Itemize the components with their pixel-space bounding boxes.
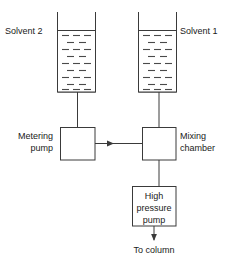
to-column-label: To column xyxy=(133,245,174,255)
flow-arrow-head-horizontal xyxy=(107,141,114,147)
outlet-arrow-head xyxy=(151,234,157,241)
metering-pump-box[interactable] xyxy=(61,128,96,161)
reservoir-label-solvent-2: Solvent 2 xyxy=(5,26,43,36)
mixing-chamber-box[interactable] xyxy=(143,128,177,161)
flow-high-pressure-pump-to-column xyxy=(151,226,157,241)
reservoir-solvent-2 xyxy=(58,12,96,92)
liquid-body-solvent-1 xyxy=(139,31,177,93)
reservoir-label-solvent-1: Solvent 1 xyxy=(180,26,218,36)
metering-pump-label-line2: pump xyxy=(30,143,53,153)
metering-pump-label-line1: Metering xyxy=(18,131,53,141)
high-pressure-pump-label-line3: pump xyxy=(143,215,166,225)
schematic-canvas: Solvent 2 Solvent 1 Metering pump Mixing… xyxy=(0,0,231,258)
mixing-chamber-label-line1: Mixing xyxy=(180,131,206,141)
high-pressure-pump-label-line1: High xyxy=(145,191,164,201)
flow-metering-pump-to-mixing-chamber xyxy=(95,141,142,147)
liquid-body-solvent-2 xyxy=(58,31,96,93)
high-pressure-pump-label-line2: pressure xyxy=(136,203,171,213)
mixing-chamber-label-line2: chamber xyxy=(180,143,215,153)
reservoir-solvent-1 xyxy=(139,12,177,92)
hplc-solvent-delivery-diagram: Solvent 2 Solvent 1 Metering pump Mixing… xyxy=(0,0,231,258)
